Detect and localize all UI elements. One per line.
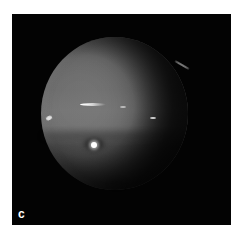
bright-cloud-small	[120, 106, 126, 108]
bright-cloud-streak	[80, 103, 106, 106]
image-panel: c	[12, 14, 231, 225]
panel-label: c	[18, 208, 25, 220]
limb-darkening	[41, 37, 188, 190]
bright-companion-cloud	[91, 142, 97, 148]
figure: c	[0, 0, 240, 228]
bright-cloud-east	[150, 117, 156, 119]
limb-cloud-streak	[175, 60, 190, 70]
